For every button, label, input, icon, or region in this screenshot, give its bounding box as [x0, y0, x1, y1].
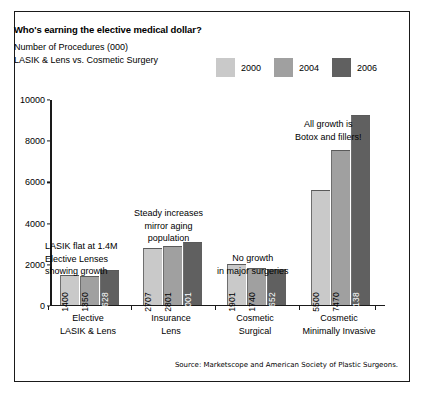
bar-2000-2[interactable]: 2707 — [143, 248, 162, 305]
y-axis-tick-label: 0 — [40, 301, 45, 311]
bar-2004-4[interactable]: 7470 — [331, 150, 350, 305]
chart-title: Who's earning the elective medical dolla… — [14, 24, 202, 35]
chart-legend: 200020042006 — [216, 58, 377, 77]
legend-entry-2006: 2006 — [332, 58, 377, 77]
y-axis-tick-label: 8000 — [25, 136, 45, 146]
chart-subtitle-line-1: Number of Procedures (000) — [14, 41, 158, 54]
bar-2000-4[interactable]: 5500 — [311, 190, 330, 304]
x-axis-tick-mark — [48, 306, 49, 310]
bar-2004-2[interactable]: 2801 — [163, 246, 182, 305]
x-axis-tick-mark — [215, 306, 216, 310]
bar-value-label: 1350 — [80, 292, 90, 312]
bar-2006-2[interactable]: 3001 — [183, 242, 202, 305]
x-axis-category-label-line-2: Minimally Invasive — [302, 325, 375, 338]
annotation-line-2: mirror aging — [134, 220, 203, 233]
annotation-cosmetic-minimally-invasive: All growth isBotox and fillers! — [295, 118, 362, 143]
bar-value-label: 2801 — [163, 292, 173, 312]
x-axis-category-label-line-1: Cosmetic — [302, 312, 375, 325]
annotation-line-1: Steady increases — [134, 207, 203, 220]
annotation-insurance: Steady increasesmirror agingpopulation — [134, 207, 203, 245]
bar-2004-1[interactable]: 1350 — [80, 276, 99, 305]
annotation-line-2: in major surgeries — [217, 265, 289, 278]
y-axis-tick-mark — [47, 99, 51, 100]
y-axis-tick-label: 4000 — [25, 219, 45, 229]
y-axis-tick-mark — [47, 182, 51, 183]
bar-value-label: 7470 — [331, 292, 341, 312]
bar-2006-4[interactable]: 9138 — [351, 115, 370, 304]
x-axis-category-label: CosmeticMinimally Invasive — [302, 312, 375, 337]
y-axis-tick-label: 2000 — [25, 260, 45, 270]
y-axis-tick-mark — [47, 223, 51, 224]
x-axis-tick-mark — [375, 306, 376, 310]
legend-swatch-2006 — [332, 58, 351, 77]
x-axis-category-label: CosmeticSurgical — [236, 312, 274, 337]
chart-subtitle: Number of Procedures (000) LASIK & Lens … — [14, 41, 158, 66]
x-axis-category-label-line-1: Insurance — [151, 312, 191, 325]
legend-swatch-2000 — [216, 58, 235, 77]
legend-entry-2000: 2000 — [216, 58, 261, 77]
bar-value-label: 1901 — [227, 292, 237, 312]
source-note: Source: Marketscope and American Society… — [175, 361, 398, 369]
bar-value-label: 5500 — [311, 292, 321, 312]
x-axis-category-label-line-2: Lens — [151, 325, 191, 338]
x-axis-category-label-line-2: Surgical — [236, 325, 274, 338]
bar-2000-1[interactable]: 1400 — [60, 275, 79, 305]
bar-value-label: 3001 — [183, 292, 193, 312]
legend-label-2004: 2004 — [299, 63, 319, 73]
chart-subtitle-line-2: LASIK & Lens vs. Cosmetic Surgery — [14, 54, 158, 67]
x-axis-category-label-line-2: LASIK & Lens — [60, 325, 116, 338]
x-axis-tick-mark — [299, 306, 300, 310]
bar-group-bars: 270728013001 — [143, 99, 202, 305]
annotation-line-3: showing growth — [45, 265, 118, 278]
annotation-line-1: LASIK flat at 1.4M — [45, 240, 118, 253]
annotation-cosmetic-surgical: No growthin major surgeries — [217, 252, 289, 277]
legend-swatch-2004 — [274, 58, 293, 77]
annotation-line-2: Botox and fillers! — [295, 131, 362, 144]
bar-value-label: 1628 — [100, 292, 110, 312]
x-axis-category-label-line-1: Cosmetic — [236, 312, 274, 325]
x-axis-category-label: ElectiveLASIK & Lens — [60, 312, 116, 337]
x-axis-category-label-line-1: Elective — [60, 312, 116, 325]
x-axis-tick-mark — [131, 306, 132, 310]
y-axis-tick-mark — [47, 141, 51, 142]
bar-value-label: 1400 — [60, 292, 70, 312]
annotation-lasik: LASIK flat at 1.4MElective Lensesshowing… — [45, 240, 118, 278]
annotation-line-1: No growth — [217, 252, 289, 265]
x-axis-category-label: InsuranceLens — [151, 312, 191, 337]
bar-value-label: 1652 — [267, 292, 277, 312]
y-axis-tick-label: 10000 — [20, 95, 45, 105]
legend-label-2006: 2006 — [357, 63, 377, 73]
bar-value-label: 1740 — [247, 292, 257, 312]
bar-value-label: 2707 — [143, 292, 153, 312]
annotation-line-3: population — [134, 232, 203, 245]
annotation-line-2: Elective Lenses — [45, 253, 118, 266]
y-axis-tick-label: 6000 — [25, 177, 45, 187]
bar-value-label: 9138 — [351, 292, 361, 312]
annotation-line-1: All growth is — [295, 118, 362, 131]
legend-label-2000: 2000 — [241, 63, 261, 73]
legend-entry-2004: 2004 — [274, 58, 319, 77]
